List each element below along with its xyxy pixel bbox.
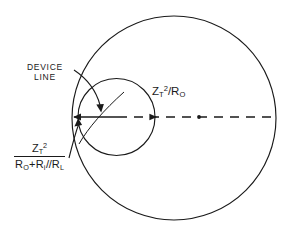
frac-zt-superscript: 2 [43,141,47,150]
den-ro-subscript: O [23,163,29,172]
large-circle-expression-label: ZT2/RO [152,85,185,99]
diagram-canvas [0,0,291,231]
device-line-arrowhead-icon [96,104,104,113]
fraction-numerator: ZT2 [14,142,65,155]
zt-subscript: T [159,90,164,99]
fraction-denominator: RO+Ri//RL [14,158,65,171]
den-ri-base: R [36,158,44,170]
axis-left-arrowhead-icon [73,114,81,121]
device-line-leader [74,70,100,105]
den-plus-operator: + [29,158,36,170]
frac-zt-base: Z [32,142,39,154]
device-line-text-line2: LINE [27,72,63,82]
den-ri-subscript: i [44,163,46,172]
fraction-bar [14,156,65,157]
den-rl-base: R [52,158,60,170]
fraction-leader [69,125,79,159]
ro-subscript: O [179,90,185,99]
device-line-callout-label: DEVICE LINE [27,62,63,82]
smith-chart-load-line-diagram: DEVICE LINE ZT2/RO ZT2 RO+Ri//RL [0,0,291,231]
zt-superscript: 2 [164,84,168,93]
zt-base: Z [152,85,159,97]
axis-center-dot [197,115,201,119]
large-circle [72,16,276,220]
den-ro-base: R [15,158,23,170]
device-line-text-line1: DEVICE [27,62,63,72]
den-rl-subscript: L [60,163,64,172]
axis-mid-arrowhead-icon [149,114,157,121]
fraction: ZT2 RO+Ri//RL [14,142,65,171]
fraction-expression-label: ZT2 RO+Ri//RL [14,142,65,171]
fraction-leader-tail [79,92,124,144]
